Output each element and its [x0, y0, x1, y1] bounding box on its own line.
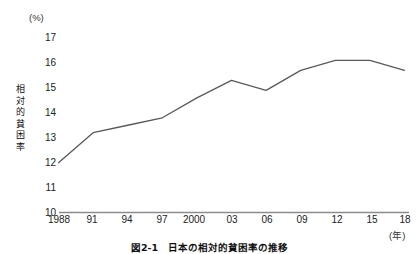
x-axis-tick-label: 06: [254, 215, 280, 225]
x-axis-tick-label: 18: [392, 215, 418, 225]
x-axis-tick-label: 03: [219, 215, 245, 225]
x-axis-tick-label: 09: [289, 215, 315, 225]
x-axis-tick-label: 15: [359, 215, 385, 225]
poverty-rate-series-line: [59, 60, 405, 162]
x-axis-tick-label: 12: [324, 215, 350, 225]
x-axis-tick-label: 1988: [41, 215, 77, 225]
x-axis-tick-label: 2000: [176, 215, 212, 225]
x-axis-tick-label: 91: [79, 215, 105, 225]
x-axis-tick-label: 97: [149, 215, 175, 225]
x-axis-tick-label: 94: [114, 215, 140, 225]
figure-caption: 図2-1 日本の相対的貧困率の推移: [0, 240, 419, 254]
